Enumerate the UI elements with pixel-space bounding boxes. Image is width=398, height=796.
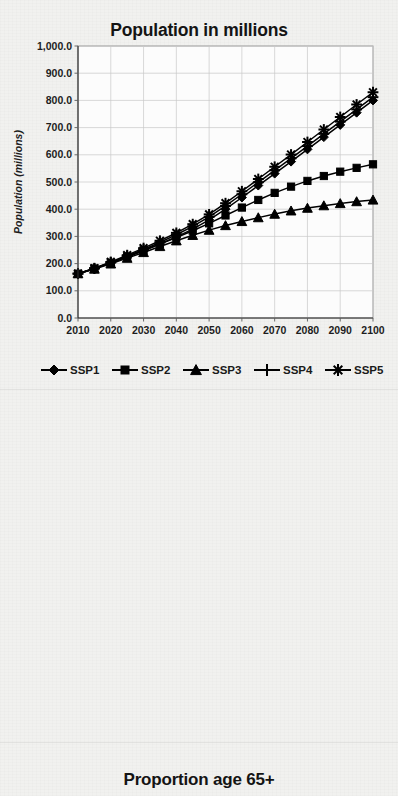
y-axis-title: Population (millions) <box>12 130 24 234</box>
square-marker <box>304 177 311 184</box>
x-tick-label: 2020 <box>99 324 123 336</box>
x-tick-label: 2090 <box>329 324 353 336</box>
y-tick-label: 500.0 <box>46 176 72 188</box>
chart-svg-population: 0.0100.0200.0300.0400.0500.0600.0700.080… <box>0 40 398 388</box>
y-tick-label: 400.0 <box>46 203 72 215</box>
marker-square <box>121 366 129 374</box>
y-tick-label: 0.0 <box>57 312 72 324</box>
legend-item-SSP1[interactable]: SSP1 <box>41 364 100 376</box>
square-marker <box>271 189 278 196</box>
marker-square <box>287 183 294 190</box>
x-tick-label: 2080 <box>296 324 320 336</box>
square-marker <box>337 168 344 175</box>
legend-marker-square <box>112 366 138 374</box>
marker-square <box>304 177 311 184</box>
marker-asterisk <box>368 87 379 98</box>
y-tick-label: 900.0 <box>46 67 72 79</box>
marker-asterisk <box>302 137 313 148</box>
legend-item-SSP4[interactable]: SSP4 <box>254 364 313 376</box>
y-tick-label: 1,000.0 <box>37 40 72 52</box>
marker-asterisk <box>171 227 182 238</box>
marker-asterisk <box>220 198 231 209</box>
x-tick-label: 2070 <box>263 324 287 336</box>
marker-asterisk <box>89 263 100 274</box>
population-plot: 0.0100.0200.0300.0400.0500.0600.0700.080… <box>0 40 398 388</box>
marker-square <box>337 168 344 175</box>
x-tick-label: 2050 <box>197 324 221 336</box>
panel-divider-2 <box>0 742 398 743</box>
square-marker <box>369 161 376 168</box>
legend-marker-triangle <box>183 365 209 375</box>
square-marker <box>121 366 129 374</box>
marker-square <box>222 212 229 219</box>
chart-title-population: Population in millions <box>0 20 398 41</box>
marker-square <box>255 196 262 203</box>
square-marker <box>287 183 294 190</box>
square-marker <box>238 204 245 211</box>
marker-asterisk <box>138 243 149 254</box>
legend-item-SSP5[interactable]: SSP5 <box>325 364 384 376</box>
marker-asterisk <box>286 149 297 160</box>
square-marker <box>255 196 262 203</box>
chart-title-proportion65: Proportion age 65+ <box>0 770 398 790</box>
marker-asterisk <box>187 219 198 230</box>
legend-label-SSP4: SSP4 <box>283 364 313 376</box>
marker-asterisk <box>236 186 247 197</box>
marker-asterisk <box>332 364 344 376</box>
y-tick-label: 800.0 <box>46 94 72 106</box>
x-tick-label: 2030 <box>132 324 156 336</box>
x-tick-label: 2060 <box>230 324 254 336</box>
x-tick-label: 2040 <box>165 324 189 336</box>
square-marker <box>222 212 229 219</box>
legend: SSP1SSP2SSP3SSP4SSP5 <box>41 364 384 376</box>
marker-square <box>238 204 245 211</box>
legend-label-SSP1: SSP1 <box>70 364 100 376</box>
marker-plus <box>261 364 273 376</box>
marker-asterisk <box>155 235 166 246</box>
panel-divider-1 <box>0 389 398 390</box>
marker-asterisk <box>318 124 329 135</box>
legend-label-SSP5: SSP5 <box>354 364 384 376</box>
marker-asterisk <box>335 112 346 123</box>
chart-panel-proportion65: Proportion age 65+ <box>0 744 398 796</box>
x-tick-label: 2100 <box>361 324 385 336</box>
legend-marker-diamond <box>41 365 67 375</box>
marker-square <box>320 172 327 179</box>
marker-asterisk <box>253 174 264 185</box>
marker-asterisk <box>269 161 280 172</box>
legend-marker-asterisk <box>325 364 351 376</box>
chart-panel-population: Population in millions 0.0100.0200.0300.… <box>0 0 398 388</box>
square-marker <box>353 164 360 171</box>
y-tick-label: 600.0 <box>46 148 72 160</box>
x-tick-label: 2010 <box>66 324 90 336</box>
y-tick-label: 100.0 <box>46 284 72 296</box>
square-marker <box>320 172 327 179</box>
legend-marker-plus <box>254 364 280 376</box>
legend-label-SSP2: SSP2 <box>141 364 170 376</box>
y-tick-label: 300.0 <box>46 230 72 242</box>
diamond-marker <box>49 365 59 375</box>
marker-asterisk <box>351 99 362 110</box>
legend-item-SSP2[interactable]: SSP2 <box>112 364 170 376</box>
marker-diamond <box>49 365 59 375</box>
marker-asterisk <box>122 250 133 261</box>
marker-asterisk <box>105 257 116 268</box>
legend-label-SSP3: SSP3 <box>212 364 241 376</box>
marker-square <box>369 161 376 168</box>
legend-item-SSP3[interactable]: SSP3 <box>183 364 241 376</box>
marker-square <box>271 189 278 196</box>
y-tick-label: 200.0 <box>46 257 72 269</box>
y-tick-label: 700.0 <box>46 121 72 133</box>
chart-panel-schooling: Mean years of schooling, age 25+ 0.02.04… <box>0 392 398 740</box>
marker-square <box>353 164 360 171</box>
scanned-figure-page: Population in millions 0.0100.0200.0300.… <box>0 0 398 796</box>
marker-asterisk <box>204 209 215 220</box>
